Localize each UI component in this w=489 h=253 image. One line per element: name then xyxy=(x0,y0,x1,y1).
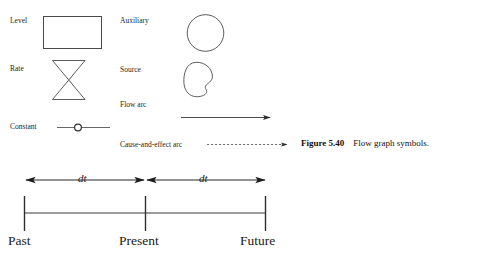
legend-label-constant: Constant xyxy=(10,123,37,131)
legend-label-source: Source xyxy=(120,66,141,74)
timeline-label-past: Past xyxy=(8,234,31,248)
figure-caption-text: Flow graph symbols. xyxy=(353,138,429,148)
legend-label-rate: Rate xyxy=(10,65,24,73)
legend-label-level: Level xyxy=(10,17,27,25)
symbol-auxiliary-circle xyxy=(187,15,224,52)
legend-label-flow-arc: Flow arc xyxy=(120,101,146,109)
timeline-label-present: Present xyxy=(119,234,159,248)
symbol-level-rectangle xyxy=(44,17,102,49)
legend-label-auxiliary: Auxiliary xyxy=(120,17,149,25)
legend-label-cause-and-effect-arc: Cause-and-effect arc xyxy=(120,141,182,149)
timeline-interval-label-right: dt xyxy=(196,173,211,184)
timeline-label-future: Future xyxy=(240,234,275,248)
timeline-interval-label-left: dt xyxy=(75,173,90,184)
symbol-constant-line-circle xyxy=(57,124,110,131)
symbol-source-cloud xyxy=(184,62,213,96)
figure-caption-number: Figure 5.40 xyxy=(301,138,344,148)
figure-page: Level Rate Constant Auxiliary Source Flo… xyxy=(0,0,489,253)
figure-caption: Figure 5.40Flow graph symbols. xyxy=(301,139,429,148)
symbol-rate-hourglass xyxy=(53,61,86,100)
symbols-vector-layer xyxy=(0,0,489,253)
timeline-diagram xyxy=(24,180,266,231)
